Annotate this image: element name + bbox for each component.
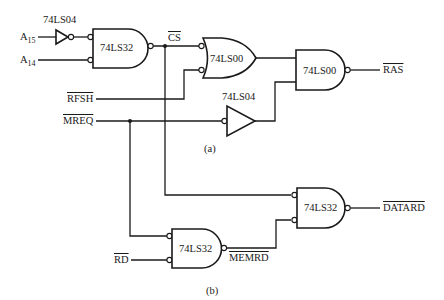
chip-label-or-gate: 74LS00 [210, 53, 243, 64]
output-label-ras: RAS [383, 64, 403, 75]
chip-label-cs-gate: 74LS32 [100, 42, 133, 53]
inverter-output-bubble [68, 34, 73, 39]
chip-label-inverter-a15: 74LS04 [43, 14, 76, 25]
mreq-to-memrd-wire [130, 121, 167, 236]
input-label-a14: A14 [20, 54, 36, 65]
inv-to-nand-wire [255, 82, 296, 121]
chip-label-memrd-gate: 74LS32 [179, 243, 212, 254]
signal-label-cs: CS [168, 32, 181, 43]
chip-label-ras-gate: 74LS00 [303, 65, 336, 76]
rfsh-wire [96, 70, 199, 99]
schematic-drawing [0, 0, 444, 300]
input-label-a15: A15 [20, 31, 36, 42]
input-label-mreq: MREQ [63, 115, 93, 126]
input-label-rd: RD [114, 254, 129, 265]
output-label-datard: DATARD [383, 202, 425, 213]
part-a-label: (a) [204, 143, 216, 154]
input-label-rfsh: RFSH [67, 93, 93, 104]
inverter-74ls04-mreq [227, 106, 255, 136]
chip-label-datard-gate: 74LS32 [304, 202, 337, 213]
logic-diagram: 74LS04 A15 A14 74LS32 CS 74LS00 74LS00 R… [0, 0, 444, 300]
signal-label-memrd: MEMRD [229, 252, 269, 263]
part-b-label: (b) [206, 285, 218, 296]
chip-label-inverter-mreq: 74LS04 [222, 91, 255, 102]
memrd-wire [227, 220, 291, 248]
inverter-74ls04-a15 [56, 30, 68, 44]
